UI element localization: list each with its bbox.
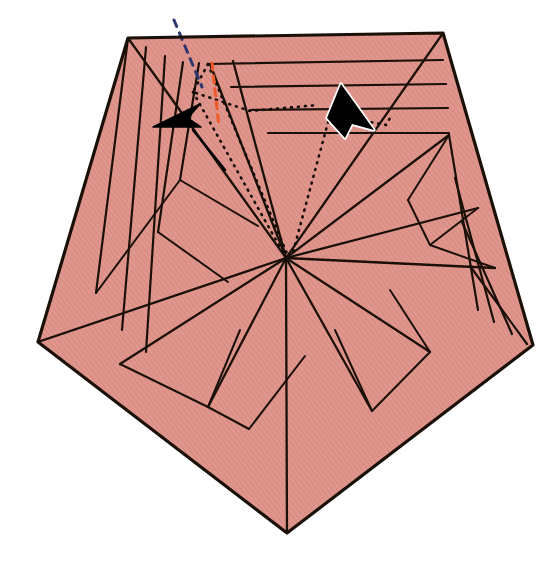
pentagon-figure — [0, 0, 557, 562]
diagram-canvas — [0, 0, 557, 562]
hub-spoke — [286, 258, 287, 533]
